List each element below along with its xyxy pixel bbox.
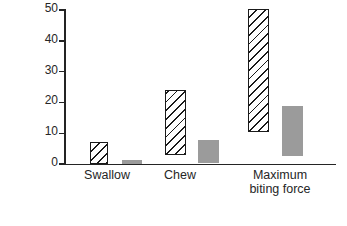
- y-tick-label-20: 20: [36, 94, 58, 106]
- y-tick-mark-30: [59, 71, 64, 72]
- x-tick-label-chew-line1: Chew: [164, 168, 196, 182]
- x-tick-label-swallow: Swallow: [70, 168, 144, 182]
- bar-swallow-gray: [122, 160, 142, 164]
- bar-chew-gray: [198, 140, 219, 163]
- y-tick-label-50: 50: [36, 2, 58, 14]
- bar-maximum-hatched: [248, 9, 269, 132]
- y-axis-tick-labels: 0 10 20 30 40 50: [36, 10, 58, 164]
- y-tick-mark-20: [59, 102, 64, 103]
- bar-chew-hatched: [165, 90, 186, 155]
- y-tick-mark-10: [59, 133, 64, 134]
- x-tick-label-chew: Chew: [152, 168, 208, 182]
- y-tick-label-30: 30: [36, 64, 58, 76]
- y-tick-mark-40: [59, 40, 64, 41]
- x-tick-label-maximum-line2: biting force: [226, 182, 334, 196]
- y-tick-mark-0: [59, 163, 64, 164]
- x-tick-label-maximum-line1: Maximum: [226, 168, 334, 182]
- x-tick-label-maximum-biting-force: Maximum biting force: [226, 168, 334, 196]
- bar-maximum-gray: [282, 106, 303, 156]
- y-tick-label-10: 10: [36, 125, 58, 137]
- bar-swallow-hatched: [90, 142, 108, 165]
- y-tick-mark-50: [59, 9, 64, 10]
- x-tick-label-swallow-line1: Swallow: [84, 168, 130, 182]
- y-tick-label-40: 40: [36, 33, 58, 45]
- plot-area: [64, 10, 333, 164]
- y-tick-label-0: 0: [36, 156, 58, 168]
- chart-figure: Force (kilograms) 0 10 20 30 40 50 Swall…: [0, 0, 347, 226]
